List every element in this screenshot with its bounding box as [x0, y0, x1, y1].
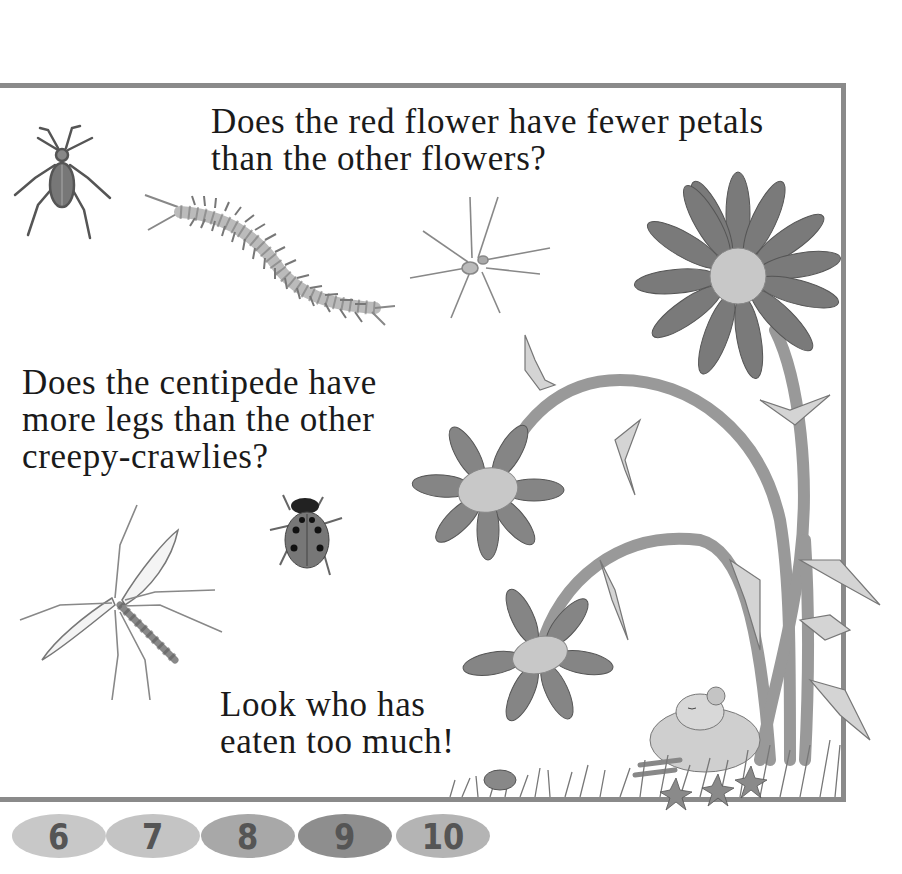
page-button-6[interactable]: 6: [12, 814, 106, 858]
thistle-stems: [500, 330, 808, 760]
crane-fly-icon: [20, 505, 222, 700]
page-number-label: 8: [237, 816, 258, 857]
frame-top-border: [0, 83, 846, 88]
flower-lower-icon: [445, 566, 627, 744]
spider-icon: [410, 197, 550, 318]
ladybird-icon: [270, 495, 342, 575]
frame-bottom-border: [0, 797, 846, 802]
page-button-10[interactable]: 10: [396, 814, 490, 858]
page-number-nav: 6 7 8 9 10: [0, 805, 902, 865]
question-line: than the other flowers?: [211, 140, 764, 177]
question-look-who: Look who has eaten too much!: [220, 686, 454, 760]
question-line: creepy-crawlies?: [22, 438, 377, 475]
page-number-label: 9: [334, 816, 355, 857]
sleeping-mouse-icon: [635, 687, 760, 775]
page-button-7[interactable]: 7: [106, 814, 200, 858]
question-red-flower: Does the red flower have fewer petals th…: [211, 103, 764, 177]
question-line: Look who has: [220, 686, 454, 723]
question-line: Does the centipede have: [22, 364, 377, 401]
page-number-label: 6: [48, 816, 69, 857]
question-line: eaten too much!: [220, 723, 454, 760]
page-number-label: 7: [142, 816, 163, 857]
frame-right-border: [841, 83, 846, 802]
caterpillar-in-grass-icon: [484, 770, 516, 790]
flower-middle-icon: [400, 406, 575, 573]
red-flower-icon: [633, 172, 842, 381]
grass-icon: [450, 740, 840, 797]
page-number-label: 10: [422, 816, 465, 857]
question-line: Does the red flower have fewer petals: [211, 103, 764, 140]
question-centipede: Does the centipede have more legs than t…: [22, 364, 377, 475]
page-button-8[interactable]: 8: [201, 814, 295, 858]
question-line: more legs than the other: [22, 401, 377, 438]
beetle-icon: [15, 126, 110, 238]
thistle-leaves: [525, 335, 880, 740]
star-flowers-icon: [660, 766, 767, 810]
page-button-9[interactable]: 9: [298, 814, 392, 858]
centipede-icon: [145, 195, 395, 325]
